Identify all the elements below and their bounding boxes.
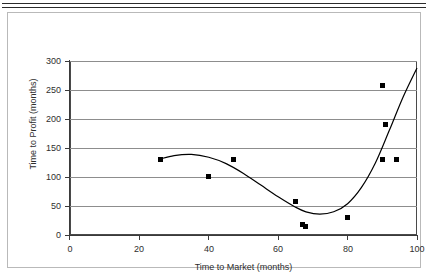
data-point — [380, 83, 385, 88]
y-axis-title: Time to Profit (months) — [28, 59, 38, 189]
data-point — [158, 157, 163, 162]
x-tick-80 — [347, 235, 348, 240]
y-tick-label-200: 200 — [27, 115, 61, 124]
y-tick-label-0: 0 — [27, 231, 61, 240]
y-tick-label-300: 300 — [27, 57, 61, 66]
x-axis-title: Time to Market (months) — [70, 262, 417, 272]
cut-off-text: ………………………………………………………………………………………… — [8, 0, 287, 2]
trend-curve — [70, 61, 417, 235]
y-tick-label-150: 150 — [27, 144, 61, 153]
x-axis-line — [69, 235, 418, 236]
x-tick-label-20: 20 — [124, 245, 154, 254]
data-point — [383, 122, 388, 127]
x-tick-100 — [417, 235, 418, 240]
data-point — [345, 215, 350, 220]
data-point — [380, 157, 385, 162]
top-horizontal-rule — [2, 3, 426, 8]
x-tick-label-0: 0 — [55, 245, 85, 254]
y-tick-label-250: 250 — [27, 86, 61, 95]
x-tick-label-40: 40 — [194, 245, 224, 254]
y-tick-label-100: 100 — [27, 173, 61, 182]
x-tick-label-100: 100 — [402, 245, 428, 254]
data-point — [293, 199, 298, 204]
data-point — [394, 157, 399, 162]
x-tick-0 — [69, 235, 70, 240]
plot-area — [70, 61, 417, 235]
x-tick-label-80: 80 — [333, 245, 363, 254]
x-tick-40 — [208, 235, 209, 240]
x-tick-label-60: 60 — [263, 245, 293, 254]
data-point — [206, 174, 211, 179]
x-tick-60 — [278, 235, 279, 240]
data-point — [231, 157, 236, 162]
x-tick-20 — [139, 235, 140, 240]
chart-figure: Time to Profit (months) 300 250 200 150 … — [7, 12, 421, 268]
y-tick-label-50: 50 — [27, 202, 61, 211]
data-point — [303, 224, 308, 229]
